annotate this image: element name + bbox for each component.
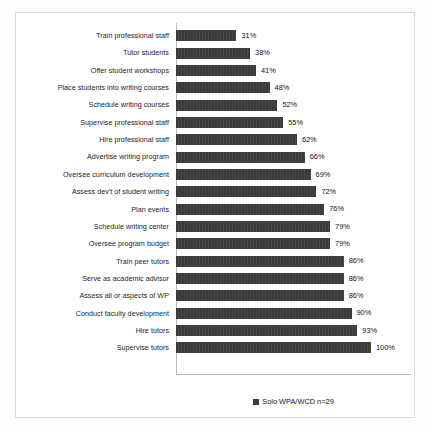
bar-track: 79% bbox=[176, 235, 411, 252]
bar-track: 48% bbox=[176, 79, 411, 96]
bar-value-label: 79% bbox=[335, 223, 350, 230]
category-label: Conduct faculty development bbox=[76, 310, 169, 317]
legend-entry-label: Solo WPA/WCD n=29 bbox=[262, 398, 334, 405]
bar bbox=[176, 204, 324, 215]
bar bbox=[176, 152, 305, 163]
bar-value-label: 69% bbox=[316, 171, 331, 178]
bar-row: Tutor students38% bbox=[176, 44, 411, 61]
bar-track: 31% bbox=[176, 27, 411, 44]
legend-square-marker-icon bbox=[253, 399, 259, 405]
bar-value-label: 62% bbox=[302, 136, 317, 143]
bar-row: Supervise professional staff55% bbox=[176, 114, 411, 131]
bar-track: 79% bbox=[176, 218, 411, 235]
bar-row: Hire professional staff62% bbox=[176, 131, 411, 148]
bar bbox=[176, 342, 371, 353]
category-label: Supervise tutors bbox=[117, 344, 169, 351]
bar-row: Oversee program budget79% bbox=[176, 235, 411, 252]
bar-value-label: 93% bbox=[362, 327, 377, 334]
bar bbox=[176, 48, 250, 59]
bar-row: Place students into writing courses48% bbox=[176, 79, 411, 96]
bar-row: Plan events76% bbox=[176, 200, 411, 217]
bar-value-label: 31% bbox=[241, 32, 256, 39]
bar-value-label: 38% bbox=[255, 49, 270, 56]
bar bbox=[176, 100, 277, 111]
bar-track: 86% bbox=[176, 252, 411, 269]
bar-track: 86% bbox=[176, 270, 411, 287]
bar-value-label: 100% bbox=[376, 344, 395, 351]
category-label: Offer student workshops bbox=[91, 67, 169, 74]
category-label: Oversee program budget bbox=[89, 240, 169, 247]
bar-track: 86% bbox=[176, 287, 411, 304]
bar-row: Advertise writing program66% bbox=[176, 148, 411, 165]
bar-value-label: 55% bbox=[288, 119, 303, 126]
bar-track: 38% bbox=[176, 44, 411, 61]
bar-row: Conduct faculty development90% bbox=[176, 305, 411, 322]
bar-value-label: 90% bbox=[357, 309, 372, 316]
value-axis-line bbox=[176, 374, 411, 375]
bar-value-label: 72% bbox=[321, 188, 336, 195]
bar-row: Hire tutors93% bbox=[176, 322, 411, 339]
bar-value-label: 86% bbox=[349, 275, 364, 282]
bar-row: Train peer tutors86% bbox=[176, 252, 411, 269]
category-label: Train professional staff bbox=[96, 32, 169, 39]
bar-row: Schedule writing courses52% bbox=[176, 96, 411, 113]
bar-value-label: 76% bbox=[329, 205, 344, 212]
bar-row: Assess all or aspects of WP86% bbox=[176, 287, 411, 304]
bar-track: 62% bbox=[176, 131, 411, 148]
bar bbox=[176, 134, 297, 145]
bar bbox=[176, 290, 344, 301]
bar bbox=[176, 30, 236, 41]
category-label: Schedule writing courses bbox=[89, 101, 169, 108]
bar-row: Offer student workshops41% bbox=[176, 62, 411, 79]
bar-value-label: 48% bbox=[275, 84, 290, 91]
bar-track: 93% bbox=[176, 322, 411, 339]
bar-track: 55% bbox=[176, 114, 411, 131]
bar bbox=[176, 82, 270, 93]
bar bbox=[176, 325, 357, 336]
category-label: Oversee curriculum development bbox=[63, 171, 169, 178]
bar-row: Supervise tutors100% bbox=[176, 339, 411, 356]
bar-rows: Train professional staff31%Tutor student… bbox=[176, 23, 411, 361]
chart-legend: Solo WPA/WCD n=29 bbox=[176, 398, 411, 405]
bar-value-label: 41% bbox=[261, 67, 276, 74]
bar-row: Oversee curriculum development69% bbox=[176, 166, 411, 183]
bar-row: Serve as academic advisor86% bbox=[176, 270, 411, 287]
bar-value-label: 86% bbox=[349, 257, 364, 264]
bar bbox=[176, 256, 344, 267]
category-label: Hire professional staff bbox=[99, 136, 169, 143]
chart-screenshot: Train professional staff31%Tutor student… bbox=[0, 0, 432, 432]
bar bbox=[176, 186, 316, 197]
figure-frame: Train professional staff31%Tutor student… bbox=[15, 12, 415, 418]
bar bbox=[176, 65, 256, 76]
bar-row: Assess dev't of student writing72% bbox=[176, 183, 411, 200]
bar-track: 66% bbox=[176, 148, 411, 165]
bar-track: 76% bbox=[176, 200, 411, 217]
bar bbox=[176, 308, 352, 319]
category-label: Hire tutors bbox=[136, 327, 169, 334]
bar bbox=[176, 117, 283, 128]
category-label: Assess all or aspects of WP bbox=[79, 292, 169, 299]
category-label: Place students into writing courses bbox=[58, 84, 169, 91]
bar-track: 100% bbox=[176, 339, 411, 356]
bar-row: Train professional staff31% bbox=[176, 27, 411, 44]
bar-track: 69% bbox=[176, 166, 411, 183]
plot-area: Train professional staff31%Tutor student… bbox=[176, 23, 411, 375]
bar-value-label: 86% bbox=[349, 292, 364, 299]
bar bbox=[176, 169, 311, 180]
category-label: Train peer tutors bbox=[116, 258, 169, 265]
category-label: Serve as academic advisor bbox=[82, 275, 169, 282]
category-label: Advertise writing program bbox=[87, 153, 169, 160]
bar bbox=[176, 273, 344, 284]
category-label: Tutor students bbox=[123, 49, 169, 56]
bar bbox=[176, 238, 330, 249]
bar-value-label: 52% bbox=[282, 101, 297, 108]
bar-track: 41% bbox=[176, 62, 411, 79]
category-label: Plan events bbox=[131, 206, 169, 213]
bar-value-label: 79% bbox=[335, 240, 350, 247]
bar-value-label: 66% bbox=[310, 153, 325, 160]
bar-track: 90% bbox=[176, 305, 411, 322]
category-label: Assess dev't of student writing bbox=[72, 188, 169, 195]
bar-track: 52% bbox=[176, 96, 411, 113]
category-label: Supervise professional staff bbox=[80, 119, 169, 126]
bar bbox=[176, 221, 330, 232]
